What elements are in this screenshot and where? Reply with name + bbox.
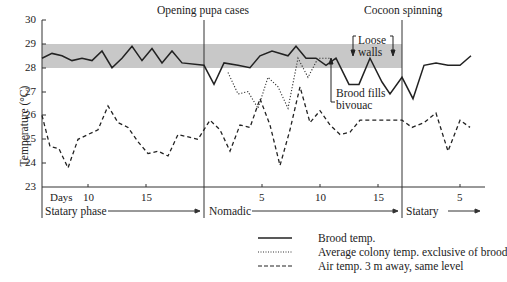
- y-ticks: [42, 20, 46, 163]
- x-tick-label: 10: [315, 192, 326, 203]
- legend-item-brood: Brood temp.: [258, 232, 498, 246]
- x-tick-label: 15: [373, 192, 384, 203]
- legend-label: Brood temp.: [318, 232, 376, 244]
- statary-phase-label: Statary phase: [45, 206, 107, 218]
- legend-item-air: Air temp. 3 m away, same level: [258, 260, 498, 274]
- loose-label: Loose: [358, 35, 386, 47]
- brood-fills-label: Brood fills: [336, 88, 386, 100]
- dashed-line-swatch: [258, 264, 314, 268]
- y-tick-label: 23: [25, 181, 36, 192]
- x-tick-label: 5: [259, 192, 265, 203]
- x-tick-label: 10: [83, 192, 94, 203]
- legend-label: Air temp. 3 m away, same level: [318, 260, 464, 272]
- statary-label: Statary: [406, 206, 439, 218]
- dotted-line-swatch: [258, 250, 314, 254]
- walls-label: walls: [358, 47, 382, 59]
- y-tick-label: 30: [25, 14, 36, 25]
- x-tick-label: 5: [457, 192, 463, 203]
- y-axis-label: Temperature (°C): [18, 76, 30, 176]
- bivouac-label: bivouac: [336, 100, 372, 112]
- days-label: Days: [50, 192, 73, 203]
- legend: Brood temp. Average colony temp. exclusi…: [258, 232, 498, 274]
- y-tick-label: 28: [25, 62, 36, 73]
- air-temp-line: [42, 87, 470, 168]
- cocoon-spinning-label: Cocoon spinning: [364, 5, 442, 17]
- y-tick-label: 29: [25, 38, 36, 49]
- nomadic-label: Nomadic: [209, 206, 251, 218]
- legend-item-colony: Average colony temp. exclusive of brood: [258, 246, 498, 260]
- legend-label: Average colony temp. exclusive of brood: [318, 246, 507, 258]
- opening-pupa-label: Opening pupa cases: [157, 5, 249, 17]
- x-tick-label: 15: [141, 192, 152, 203]
- solid-line-swatch: [258, 236, 314, 240]
